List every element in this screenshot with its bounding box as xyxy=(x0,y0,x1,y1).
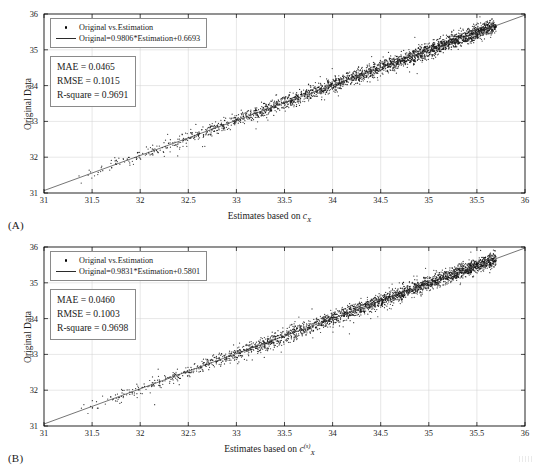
legend-entry-line-b: Original=0.9831*Estimation+0.5801 xyxy=(55,266,200,277)
y-tick-label: 35 xyxy=(16,278,38,287)
figure-scatter-comparison: Original Data Estimates based on cX Orig… xyxy=(0,0,539,467)
y-tick-label: 33 xyxy=(16,117,38,126)
x-axis-label-sup-b: (s) xyxy=(304,442,311,449)
legend-entry-marker-a: Original vs.Estimation xyxy=(55,22,200,33)
stat-rmse-b: RMSE = 0.1003 xyxy=(57,307,128,321)
y-tick-label: 33 xyxy=(16,350,38,359)
legend-entry-marker-b: Original vs.Estimation xyxy=(55,255,200,266)
stats-box-b: MAE = 0.0460 RMSE = 0.1003 R-square = 0.… xyxy=(50,289,136,340)
legend-entry-line-a: Original=0.9806*Estimation+0.6693 xyxy=(55,33,200,44)
x-tick-label: 36 xyxy=(521,196,529,205)
stats-box-a: MAE = 0.0465 RMSE = 0.1015 R-square = 0.… xyxy=(50,56,136,107)
legend-line-label-a: Original=0.9806*Estimation+0.6693 xyxy=(77,33,200,44)
x-axis-label-a: Estimates based on cX xyxy=(0,209,539,224)
y-tick-label: 32 xyxy=(16,153,38,162)
legend-b: Original vs.Estimation Original=0.9831*E… xyxy=(50,251,207,281)
x-tick-label: 33.5 xyxy=(277,429,292,438)
x-tick-label: 34.5 xyxy=(373,429,388,438)
x-tick-label: 33.5 xyxy=(277,196,292,205)
x-tick-label: 33 xyxy=(232,196,240,205)
x-tick-label: 31 xyxy=(40,429,48,438)
panel-b: Original Data Estimates based on c(s)X O… xyxy=(0,233,539,466)
panel-tag-b: (B) xyxy=(8,452,23,464)
x-tick-label: 35.5 xyxy=(470,429,485,438)
legend-dot-icon-b xyxy=(55,256,77,266)
legend-marker-label-a: Original vs.Estimation xyxy=(77,22,153,33)
x-tick-label: 32 xyxy=(136,429,144,438)
y-tick-label: 31 xyxy=(16,189,38,198)
x-axis-label-text-b: Estimates based on xyxy=(224,444,299,454)
scan-artifact xyxy=(519,456,533,462)
x-tick-label: 31 xyxy=(40,196,48,205)
y-tick-label: 32 xyxy=(16,386,38,395)
x-tick-label: 35 xyxy=(425,429,433,438)
x-tick-label: 32.5 xyxy=(181,429,196,438)
legend-marker-label-b: Original vs.Estimation xyxy=(77,255,153,266)
legend-dot-icon-a xyxy=(55,23,77,33)
x-axis-label-b: Estimates based on c(s)X xyxy=(0,442,539,457)
legend-line-label-b: Original=0.9831*Estimation+0.5801 xyxy=(77,266,200,277)
x-tick-label: 36 xyxy=(521,429,529,438)
x-tick-label: 35 xyxy=(425,196,433,205)
y-tick-label: 34 xyxy=(16,81,38,90)
stat-rmse-a: RMSE = 0.1015 xyxy=(57,74,128,88)
x-axis-label-sub-b: X xyxy=(311,449,315,457)
x-tick-label: 33 xyxy=(232,429,240,438)
y-tick-label: 36 xyxy=(16,10,38,19)
legend-line-icon-b xyxy=(55,267,77,277)
x-axis-label-text-a: Estimates based on xyxy=(228,211,303,221)
legend-line-icon-a xyxy=(55,34,77,44)
x-tick-label: 32.5 xyxy=(181,196,196,205)
stat-rsquare-b: R-square = 0.9698 xyxy=(57,321,128,335)
panel-tag-a: (A) xyxy=(8,219,24,231)
x-tick-label: 34.5 xyxy=(373,196,388,205)
x-tick-label: 31.5 xyxy=(85,429,100,438)
x-axis-label-sub-a: X xyxy=(307,216,311,224)
y-tick-label: 35 xyxy=(16,45,38,54)
stat-mae-a: MAE = 0.0465 xyxy=(57,60,128,74)
y-tick-label: 34 xyxy=(16,314,38,323)
legend-a: Original vs.Estimation Original=0.9806*E… xyxy=(50,18,207,48)
y-tick-label: 36 xyxy=(16,243,38,252)
y-tick-label: 31 xyxy=(16,422,38,431)
stat-mae-b: MAE = 0.0460 xyxy=(57,293,128,307)
stat-rsquare-a: R-square = 0.9691 xyxy=(57,88,128,102)
x-tick-label: 34 xyxy=(328,196,336,205)
x-tick-label: 32 xyxy=(136,196,144,205)
x-tick-label: 35.5 xyxy=(470,196,485,205)
x-tick-label: 34 xyxy=(328,429,336,438)
panel-a: Original Data Estimates based on cX Orig… xyxy=(0,0,539,233)
x-tick-label: 31.5 xyxy=(85,196,100,205)
